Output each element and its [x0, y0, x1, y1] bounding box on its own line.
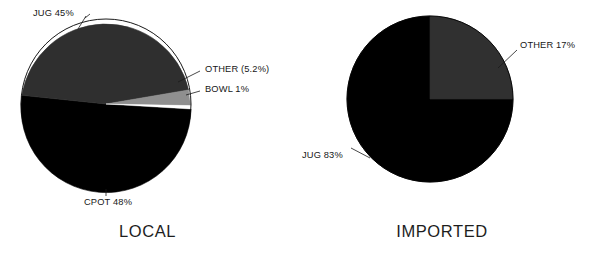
pie-chart-figure: JUG 45% OTHER (5.2%) BOWL 1% CPOT 48% LO… [0, 0, 589, 263]
chart-panel-local: JUG 45% OTHER (5.2%) BOWL 1% CPOT 48% LO… [0, 0, 295, 263]
slice-label-jug-imported: JUG 83% [302, 150, 343, 160]
slice-label-cpot-local: CPOT 48% [84, 197, 132, 207]
chart-caption-imported: IMPORTED [295, 222, 589, 241]
pie-slice-jug-local[interactable] [22, 24, 189, 104]
slice-label-bowl-local: BOWL 1% [205, 84, 249, 94]
chart-panel-imported: OTHER 17% JUG 83% IMPORTED [295, 0, 589, 263]
slice-label-other-local: OTHER (5.2%) [205, 64, 269, 74]
pie-slice-other-imported[interactable] [430, 16, 513, 99]
pie-slice-cpot-local[interactable] [21, 95, 191, 192]
slice-label-jug-local: JUG 45% [33, 8, 74, 18]
pie-chart-imported [295, 0, 589, 215]
slice-label-other-imported: OTHER 17% [520, 40, 575, 50]
pie-chart-local [0, 0, 295, 215]
chart-caption-local: LOCAL [0, 222, 295, 241]
